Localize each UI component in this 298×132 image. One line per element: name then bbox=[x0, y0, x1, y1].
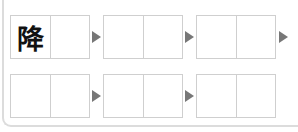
char-cell[interactable] bbox=[143, 16, 183, 58]
char-cell[interactable] bbox=[236, 16, 276, 58]
word-pair-r1-p2 bbox=[103, 15, 183, 59]
word-pair-r1-p1: 降 bbox=[10, 15, 90, 59]
char-cell[interactable] bbox=[50, 75, 90, 117]
word-pair-r2-p1 bbox=[10, 74, 90, 118]
play-triangle-icon bbox=[279, 31, 288, 43]
char-cell[interactable] bbox=[236, 75, 276, 117]
word-pair-r1-p3 bbox=[196, 15, 276, 59]
play-triangle-icon bbox=[185, 90, 194, 102]
char-cell[interactable]: 降 bbox=[11, 16, 50, 58]
char-cell[interactable] bbox=[143, 75, 183, 117]
char-cell[interactable] bbox=[197, 16, 236, 58]
word-pair-r2-p2 bbox=[103, 74, 183, 118]
char-cell[interactable] bbox=[50, 16, 90, 58]
play-triangle-icon bbox=[92, 31, 101, 43]
play-triangle-icon bbox=[185, 31, 194, 43]
char-cell[interactable] bbox=[104, 75, 143, 117]
word-pair-r2-p3 bbox=[196, 74, 276, 118]
char-cell[interactable] bbox=[197, 75, 236, 117]
char-cell[interactable] bbox=[11, 75, 50, 117]
play-triangle-icon bbox=[92, 90, 101, 102]
char-cell[interactable] bbox=[104, 16, 143, 58]
